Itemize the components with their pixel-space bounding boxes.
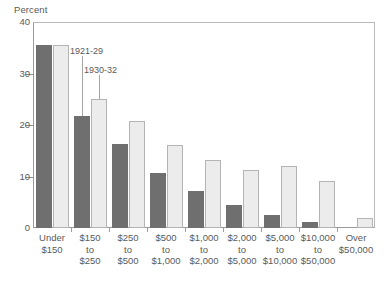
- footnote: [97, 276, 327, 282]
- x-axis-category-label: $150to$250: [71, 232, 109, 267]
- x-axis-category-line: to: [185, 244, 223, 256]
- x-axis-category-line: Under: [33, 232, 71, 244]
- x-axis-category-line: Over: [337, 232, 375, 244]
- x-axis-category-line: to: [147, 244, 185, 256]
- x-axis-category-line: $1,000: [147, 255, 185, 267]
- y-axis-tick-label: 20: [13, 119, 30, 130]
- x-axis-category-line: $150: [33, 244, 71, 256]
- y-axis-tick-label: 30: [13, 68, 30, 79]
- series-annotation-label: 1930-32: [84, 65, 117, 75]
- x-axis-category-label: Under$150: [33, 232, 71, 255]
- x-axis-category-line: to: [299, 244, 337, 256]
- x-axis-category-line: $50,000: [299, 255, 337, 267]
- bar-chart: Percent 010203040 1921-291930-32 Under$1…: [0, 0, 384, 283]
- x-axis-category-line: $50,000: [337, 244, 375, 256]
- x-axis-category-label: $1,000to$2,000: [185, 232, 223, 267]
- x-axis-category-line: to: [223, 244, 261, 256]
- series-annotation-label: 1921-29: [70, 46, 103, 56]
- series-annotation-leader-line: [99, 75, 100, 99]
- x-axis-category-line: $1,000: [185, 232, 223, 244]
- x-axis-category-line: $250: [109, 232, 147, 244]
- y-axis-tick-label: 10: [13, 171, 30, 182]
- x-axis-category-label: $10,000to$50,000: [299, 232, 337, 267]
- x-axis-category-line: to: [261, 244, 299, 256]
- x-axis-category-line: $2,000: [223, 232, 261, 244]
- x-axis-category-line: $150: [71, 232, 109, 244]
- series-annotation-leader-line: [82, 56, 83, 116]
- x-axis-category-label: $250to$500: [109, 232, 147, 267]
- x-axis-category-line: $250: [71, 255, 109, 267]
- x-axis-category-line: $5,000: [223, 255, 261, 267]
- x-axis-category-line: $500: [109, 255, 147, 267]
- x-axis-category-line: to: [71, 244, 109, 256]
- x-axis-category-label: $2,000to$5,000: [223, 232, 261, 267]
- x-axis-category-label: $5,000to$10,000: [261, 232, 299, 267]
- x-axis-category-line: $2,000: [185, 255, 223, 267]
- x-axis-category-line: $5,000: [261, 232, 299, 244]
- x-axis-category-label: $500to$1,000: [147, 232, 185, 267]
- x-axis-category-line: $10,000: [261, 255, 299, 267]
- y-axis-title: Percent: [14, 4, 47, 15]
- x-axis-category-line: to: [109, 244, 147, 256]
- y-axis-tick-label: 0: [13, 222, 30, 233]
- x-axis-category-line: $500: [147, 232, 185, 244]
- y-axis-tick-label: 40: [13, 16, 30, 27]
- x-axis-category-line: $10,000: [299, 232, 337, 244]
- x-axis-category-label: Over$50,000: [337, 232, 375, 255]
